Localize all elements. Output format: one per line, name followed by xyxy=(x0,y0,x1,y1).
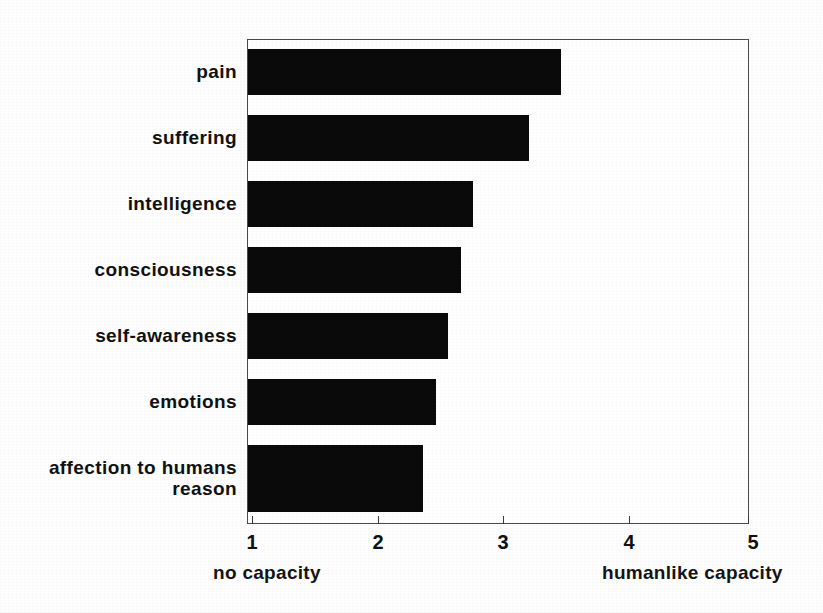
chart-row: self-awareness xyxy=(0,313,823,359)
bar-suffering xyxy=(248,115,529,161)
x-tick-1 xyxy=(252,516,253,524)
x-tick-label-2: 2 xyxy=(358,531,398,554)
axis-note-low: no capacity xyxy=(213,562,321,584)
x-tick-label-3: 3 xyxy=(483,531,523,554)
bar-self-awareness xyxy=(248,313,448,359)
bar-chart-figure: pain suffering intelligence consciousnes… xyxy=(0,0,823,613)
category-label-emotions: emotions xyxy=(149,391,237,413)
bar-emotions xyxy=(248,379,436,425)
category-label-consciousness: consciousness xyxy=(95,259,237,281)
chart-row: pain xyxy=(0,49,823,95)
chart-row: reason xyxy=(0,466,823,512)
x-tick-3 xyxy=(503,516,504,524)
category-label-reason: reason xyxy=(172,478,237,500)
category-label-self-awareness: self-awareness xyxy=(95,325,237,347)
x-tick-label-4: 4 xyxy=(609,531,649,554)
x-tick-label-5: 5 xyxy=(733,531,773,554)
x-tick-5 xyxy=(748,516,749,524)
chart-row: emotions xyxy=(0,379,823,425)
x-tick-4 xyxy=(629,516,630,524)
chart-row: consciousness xyxy=(0,247,823,293)
chart-row: suffering xyxy=(0,115,823,161)
axis-note-high: humanlike capacity xyxy=(602,562,783,584)
category-label-suffering: suffering xyxy=(152,127,237,149)
bar-pain xyxy=(248,49,561,95)
bar-consciousness xyxy=(248,247,461,293)
bar-intelligence xyxy=(248,181,473,227)
category-label-intelligence: intelligence xyxy=(128,193,237,215)
x-tick-label-1: 1 xyxy=(232,531,272,554)
x-tick-2 xyxy=(378,516,379,524)
bar-reason xyxy=(248,466,423,512)
category-label-pain: pain xyxy=(196,61,237,83)
chart-row: intelligence xyxy=(0,181,823,227)
